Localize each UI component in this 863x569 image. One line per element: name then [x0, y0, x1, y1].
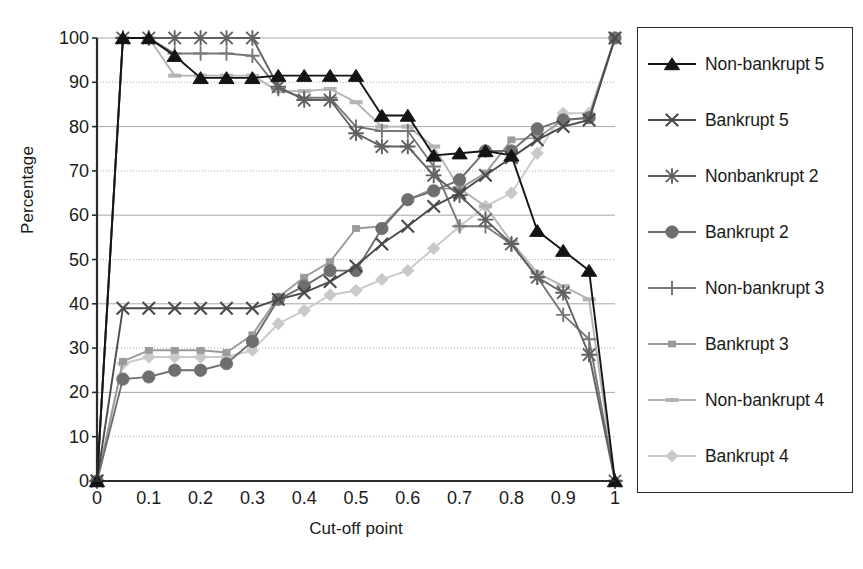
cross-marker [428, 200, 440, 212]
y-tick-label: 0 [79, 471, 89, 492]
circle-marker [531, 123, 543, 135]
series-marker [117, 373, 129, 385]
series-marker [348, 125, 364, 141]
series-marker [197, 347, 204, 353]
legend-item-non-bankrupt-5[interactable]: Non-bankrupt 5 [646, 42, 846, 86]
circle-marker [428, 185, 440, 197]
legend-label: Non-bankrupt 3 [705, 278, 824, 299]
series-marker [666, 398, 679, 402]
series-marker [530, 269, 546, 285]
series-marker [193, 46, 207, 60]
cross-marker [402, 220, 414, 232]
x-tick-label: 0.1 [136, 488, 161, 509]
series-marker [145, 347, 152, 353]
y-tick-label: 90 [69, 72, 89, 93]
series-marker [350, 100, 363, 104]
y-tick-label: 20 [69, 382, 89, 403]
series-marker [504, 236, 520, 252]
dash-marker [168, 74, 181, 78]
star-marker [400, 139, 416, 155]
triangle-marker [530, 225, 545, 237]
star-marker [478, 212, 494, 228]
series-marker [324, 264, 336, 276]
legend-item-non-bankrupt-4[interactable]: Non-bankrupt 4 [646, 378, 846, 422]
square-marker [223, 350, 230, 356]
legend-marker-square-icon [646, 334, 698, 354]
series-marker [168, 74, 181, 78]
circle-marker [246, 335, 258, 347]
star-marker [167, 30, 183, 46]
dash-marker [324, 87, 337, 91]
series-marker [169, 364, 181, 376]
circle-marker [666, 226, 678, 238]
x-tick-label: 0.7 [447, 488, 472, 509]
series-marker [296, 92, 312, 108]
diamond-marker [666, 450, 678, 462]
plus-marker [219, 46, 233, 60]
cross-marker [376, 238, 388, 250]
legend-item-non-bankrupt-3[interactable]: Non-bankrupt 3 [646, 266, 846, 310]
series-marker [298, 304, 310, 316]
dash-marker [666, 398, 679, 402]
square-marker [327, 259, 334, 265]
y-tick-label: 100 [59, 28, 89, 49]
legend-label: Bankrupt 2 [705, 222, 789, 243]
x-tick-label: 0.4 [292, 488, 317, 509]
diamond-marker [376, 273, 388, 285]
series-marker [668, 341, 675, 347]
y-tick-label: 10 [69, 426, 89, 447]
series-marker [531, 123, 543, 135]
series-marker [530, 225, 545, 237]
diamond-marker [350, 284, 362, 296]
star-marker [219, 30, 235, 46]
legend-label: Bankrupt 3 [705, 334, 789, 355]
series-marker [555, 285, 571, 301]
legend-item-bankrupt-5[interactable]: Bankrupt 5 [646, 98, 846, 142]
legend-item-bankrupt-2[interactable]: Bankrupt 2 [646, 210, 846, 254]
series-marker [324, 289, 336, 301]
cross-marker [324, 275, 336, 287]
x-tick-label: 0.5 [343, 488, 368, 509]
series-marker [428, 185, 440, 197]
legend-item-nonbankrupt-2[interactable]: Nonbankrupt 2 [646, 154, 846, 198]
star-marker [581, 347, 597, 363]
series-marker [426, 168, 442, 184]
legend-marker-diamond-icon [646, 446, 698, 466]
series-marker [350, 284, 362, 296]
roc-percentage-chart: Percentage Cut-off point 010203040506070… [0, 0, 863, 569]
series-marker [479, 204, 492, 208]
star-marker [530, 269, 546, 285]
square-marker [197, 347, 204, 353]
legend-marker-cross-icon [646, 110, 698, 130]
series-marker [665, 281, 679, 295]
series-marker [119, 358, 126, 364]
legend-marker-circle-icon [646, 222, 698, 242]
star-marker [348, 125, 364, 141]
plot-area: 0102030405060708090100 00.10.20.30.40.50… [97, 38, 615, 481]
diamond-marker [324, 289, 336, 301]
square-marker [119, 358, 126, 364]
x-tick-label: 0.9 [551, 488, 576, 509]
chart-page: Percentage Cut-off point 010203040506070… [0, 0, 863, 569]
series-marker [171, 347, 178, 353]
plot-svg [97, 38, 615, 481]
legend-item-bankrupt-3[interactable]: Bankrupt 3 [646, 322, 846, 366]
star-marker [555, 285, 571, 301]
star-marker [322, 92, 338, 108]
series-marker [219, 46, 233, 60]
x-tick-label: 0.8 [499, 488, 524, 509]
series-marker [376, 222, 388, 234]
y-tick-label: 70 [69, 160, 89, 181]
legend-item-bankrupt-4[interactable]: Bankrupt 4 [646, 434, 846, 478]
circle-marker [453, 174, 465, 186]
dash-marker [479, 204, 492, 208]
x-axis-label: Cut-off point [97, 519, 615, 539]
x-tick-label: 0 [92, 488, 102, 509]
series-marker [557, 114, 569, 126]
series-marker [428, 200, 440, 212]
circle-marker [557, 114, 569, 126]
star-marker [296, 92, 312, 108]
circle-marker [117, 373, 129, 385]
gridlines [97, 38, 615, 481]
legend-label: Bankrupt 4 [705, 446, 789, 467]
